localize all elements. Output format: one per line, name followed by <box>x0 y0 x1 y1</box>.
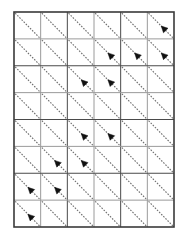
figure-container <box>0 0 189 238</box>
grid-diagram <box>0 0 189 238</box>
